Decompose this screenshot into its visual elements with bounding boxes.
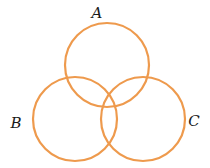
set-b-label: B <box>9 114 21 132</box>
venn-diagram-canvas: A B C <box>0 0 210 168</box>
set-b-circle <box>33 77 117 161</box>
venn-diagram: A B C <box>0 0 210 168</box>
set-c-label: C <box>188 112 200 130</box>
set-a-circle <box>65 23 149 107</box>
set-a-label: A <box>90 4 103 22</box>
set-c-circle <box>101 77 185 161</box>
